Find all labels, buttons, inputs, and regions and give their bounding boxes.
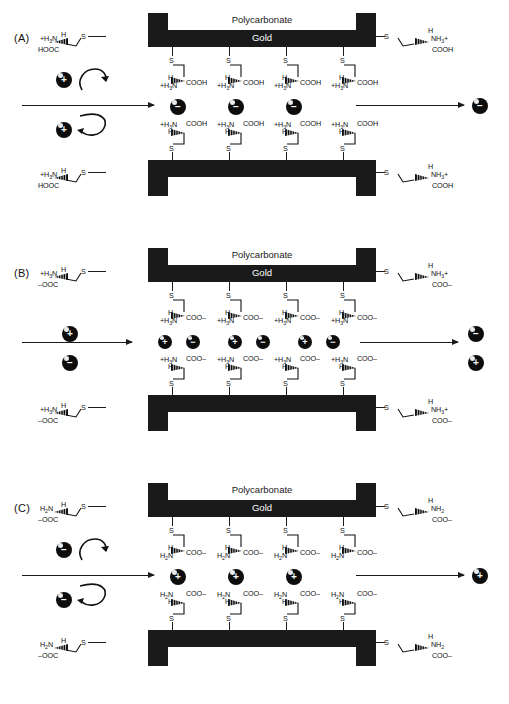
pore-cysteine-lower-4-carboxyl: COO– [357, 354, 377, 363]
polycarbonate-label: Polycarbonate [148, 14, 376, 25]
membrane-slab-bot-bar [148, 160, 376, 177]
cysteine-group-right-top-backbone [394, 270, 418, 286]
pore-cysteine-upper-1-carboxyl: COO– [186, 548, 206, 557]
pore-cysteine-upper-4-amine: +H3N [331, 81, 348, 91]
pore-cysteine-lower-1-tether-line [172, 152, 173, 161]
pore-cysteine-upper-2-carboxyl: COOH [243, 78, 264, 87]
gold-label: Gold [148, 502, 376, 513]
sphere-charge-label: + [228, 335, 242, 349]
cysteine-group-left-top-sulfur: S [81, 32, 86, 41]
pore-cysteine-upper-4-amine: H2N [331, 551, 344, 561]
feed-sphere-1: + [56, 72, 72, 88]
feed-sphere-1: + [62, 326, 78, 342]
pore-cysteine-upper-4-tether-line [343, 517, 344, 526]
pore-cysteine-lower-2-backbone [229, 367, 255, 387]
feed-sphere-2: − [62, 355, 78, 371]
sphere-charge-label: − [170, 99, 186, 115]
cysteine-group-right-top-hydrogen: H [428, 261, 433, 270]
pore-cysteine-lower-4-tether-line [343, 387, 344, 396]
pore-cysteine-lower-1-carboxyl: COOH [186, 119, 207, 128]
cysteine-group-right-bot-s-to-membrane-line [368, 642, 385, 643]
pore-sphere-2: − [186, 335, 200, 349]
pore-cysteine-upper-2-amine: +H3N [217, 81, 234, 91]
cysteine-group-right-bot-backbone [394, 641, 418, 657]
cysteine-group-left-top-s-to-membrane-line [88, 506, 106, 507]
pore-cysteine-upper-1-carboxyl: COO– [186, 313, 206, 322]
pore-cysteine-upper-1-tether-line [172, 517, 173, 526]
feed-flow-arrow [22, 575, 154, 576]
pore-cysteine-upper-1-carboxyl: COOH [186, 78, 207, 87]
pore-cysteine-upper-4-carboxyl: COOH [357, 78, 378, 87]
cysteine-group-right-bot-amine: NH2 [431, 640, 444, 650]
recirculation-arrow-icon-upper [76, 66, 110, 96]
sphere-charge-label: + [170, 569, 186, 585]
pore-cysteine-upper-2-tether-line [229, 517, 230, 526]
cysteine-group-right-top-backbone [394, 35, 418, 51]
cysteine-group-right-bot-backbone [394, 171, 418, 187]
sphere-charge-label: + [158, 335, 172, 349]
sphere-charge-label: + [286, 569, 302, 585]
pore-sphere-1: + [158, 335, 172, 349]
pore-sphere-3: + [228, 335, 242, 349]
cysteine-group-left-bot-amine: H2N [40, 640, 53, 650]
pore-cysteine-lower-3-tether-line [286, 152, 287, 161]
pore-cysteine-upper-2-carboxyl: COO– [243, 548, 263, 557]
pore-cysteine-lower-2-tether-line [229, 387, 230, 396]
cysteine-group-left-bot-sulfur: S [81, 403, 86, 412]
pore-cysteine-upper-3-carboxyl: COO– [300, 313, 320, 322]
pore-cysteine-upper-4-tether-line [343, 47, 344, 56]
pore-cysteine-lower-3-backbone [286, 602, 312, 622]
cysteine-group-right-top-hydrogen: H [428, 26, 433, 35]
recirculation-arrow-icon-lower [76, 580, 110, 610]
cysteine-group-right-bot-backbone [394, 406, 418, 422]
panel-tag-B: (B) [14, 267, 30, 279]
pore-cysteine-lower-4-backbone [343, 367, 369, 387]
sphere-charge-label: − [286, 99, 302, 115]
gold-label: Gold [148, 32, 376, 43]
cysteine-group-right-top-amine: NH3+ [431, 269, 448, 279]
pore-cysteine-upper-2-amine: +H3N [217, 316, 234, 326]
pore-cysteine-upper-2-tether-line [229, 282, 230, 291]
permeate-sphere-1: − [468, 326, 484, 342]
pore-cysteine-lower-4-backbone [343, 602, 369, 622]
cysteine-group-right-bot-hydrogen: H [428, 632, 433, 641]
panel-c: (C)PolycarbonateGoldH2NH–OOCSNH2HCOO–SH2… [0, 470, 509, 704]
pore-cysteine-lower-2-carboxyl: COOH [243, 119, 264, 128]
cysteine-group-right-top-carboxyl: COOH [432, 45, 453, 54]
pore-cysteine-lower-4-carboxyl: COO– [357, 589, 377, 598]
permeate-flow-arrow [356, 105, 464, 106]
pore-cysteine-lower-3-carboxyl: COO– [300, 589, 320, 598]
cysteine-group-left-bot-sulfur: S [81, 638, 86, 647]
cysteine-group-right-top-backbone [394, 505, 418, 521]
sphere-charge-label: − [62, 355, 78, 371]
polycarbonate-label: Polycarbonate [148, 249, 376, 260]
cysteine-group-right-bot-carboxyl: COOH [432, 181, 453, 190]
pore-cysteine-lower-3-backbone [286, 367, 312, 387]
pore-cysteine-upper-2-amine: H2N [217, 551, 230, 561]
sphere-charge-label: − [326, 335, 340, 349]
pore-cysteine-upper-3-carboxyl: COO– [300, 548, 320, 557]
pore-cysteine-upper-4-amine: +H3N [331, 316, 348, 326]
pore-cysteine-upper-1-amine: H2N [160, 551, 173, 561]
pore-cysteine-upper-3-tether-line [286, 517, 287, 526]
pore-cysteine-lower-3-carboxyl: COO– [300, 354, 320, 363]
pore-cysteine-lower-1-backbone [172, 367, 198, 387]
sphere-charge-label: − [256, 335, 270, 349]
sphere-charge-label: + [468, 355, 484, 371]
pore-cysteine-lower-1-backbone [172, 132, 198, 152]
pore-cysteine-upper-1-tether-line [172, 282, 173, 291]
polycarbonate-label: Polycarbonate [148, 484, 376, 495]
pore-cysteine-upper-3-amine: H2N [274, 551, 287, 561]
pore-cysteine-upper-1-tether-line [172, 47, 173, 56]
pore-cysteine-upper-3-tether-line [286, 47, 287, 56]
cysteine-group-left-top-amine: H2N [40, 504, 53, 514]
membrane-slab-bot-rpost [356, 176, 376, 196]
pore-sphere-3: + [286, 569, 302, 585]
pore-sphere-6: − [326, 335, 340, 349]
pore-cysteine-lower-2-tether-line [229, 622, 230, 631]
permeate-sphere-1: − [472, 98, 488, 114]
panel-a: (A)PolycarbonateGold+H3NHHOOCSNH3+HCOOHS… [0, 0, 509, 234]
pore-cysteine-lower-1-carboxyl: COO– [186, 589, 206, 598]
pore-cysteine-lower-1-backbone [172, 602, 198, 622]
membrane-slab-bot-lpost [148, 411, 168, 431]
